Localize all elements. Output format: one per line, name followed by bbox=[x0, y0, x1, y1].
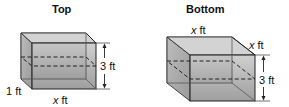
figure-bottom: Bottom 3 ft x ft x ft bbox=[167, 3, 274, 101]
dimension-height-top: 3 ft bbox=[96, 43, 115, 89]
arrow-up-icon bbox=[262, 56, 266, 61]
dimension-height-bottom: 3 ft bbox=[255, 55, 274, 101]
label-height-bottom: 3 ft bbox=[259, 74, 274, 86]
figure-title-top: Top bbox=[52, 3, 72, 15]
diagram-canvas: Top 3 ft 1 ft x ft bbox=[0, 0, 289, 107]
arrow-up-icon bbox=[103, 44, 107, 49]
label-top-width-bottom: x ft bbox=[190, 24, 206, 36]
box-top bbox=[21, 33, 96, 89]
label-depth-bottom: x ft bbox=[248, 39, 264, 51]
arrow-down-icon bbox=[103, 84, 107, 89]
label-width-top: x ft bbox=[52, 94, 68, 106]
arrow-down-icon bbox=[262, 96, 266, 101]
box-bottom bbox=[167, 37, 255, 101]
figure-top: Top 3 ft 1 ft x ft bbox=[6, 3, 115, 106]
label-height-top: 3 ft bbox=[100, 60, 115, 72]
figure-title-bottom: Bottom bbox=[186, 3, 225, 15]
label-depth-top: 1 ft bbox=[6, 85, 21, 97]
